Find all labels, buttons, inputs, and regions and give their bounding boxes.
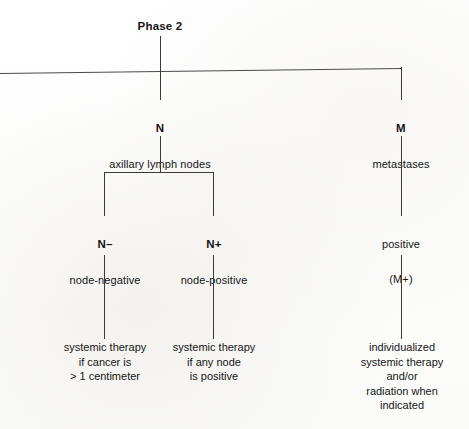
node-n-code: N bbox=[90, 121, 230, 136]
connector-m-positive-to-outcome bbox=[401, 255, 402, 339]
connector-n-plus-to-outcome bbox=[213, 255, 214, 339]
connector-n-stem bbox=[160, 136, 161, 172]
connector-n-split-left bbox=[104, 172, 105, 216]
connector-main-trunk bbox=[0, 68, 402, 74]
leaf-n-plus-outcome: systemic therapy if any node is positive bbox=[153, 340, 275, 384]
connector-n-split-right bbox=[213, 172, 214, 216]
connector-trunk-to-m bbox=[401, 67, 402, 100]
diagram-canvas: Phase 2 N axillary lymph nodes M metasta… bbox=[0, 0, 469, 429]
connector-title-to-trunk bbox=[160, 36, 161, 72]
node-n-plus-desc: node-positive bbox=[155, 273, 273, 287]
node-n-plus-code: N+ bbox=[155, 237, 273, 252]
connector-trunk-to-n bbox=[160, 68, 161, 100]
node-n-minus-code: N– bbox=[46, 237, 164, 252]
node-n-minus: N– node-negative bbox=[46, 216, 164, 308]
connector-n-split-bar bbox=[104, 172, 214, 173]
node-n-minus-desc: node-negative bbox=[46, 273, 164, 287]
node-m-code: M bbox=[341, 121, 461, 136]
node-m-positive-code: positive bbox=[342, 237, 460, 251]
connector-n-minus-to-outcome bbox=[104, 255, 105, 339]
leaf-n-minus-outcome: systemic therapy if cancer is > 1 centim… bbox=[44, 340, 166, 384]
connector-m-to-positive bbox=[401, 136, 402, 216]
diagram-title: Phase 2 bbox=[112, 20, 208, 32]
leaf-m-outcome: individualized systemic therapy and/or r… bbox=[340, 340, 464, 413]
node-n-plus: N+ node-positive bbox=[155, 216, 273, 308]
